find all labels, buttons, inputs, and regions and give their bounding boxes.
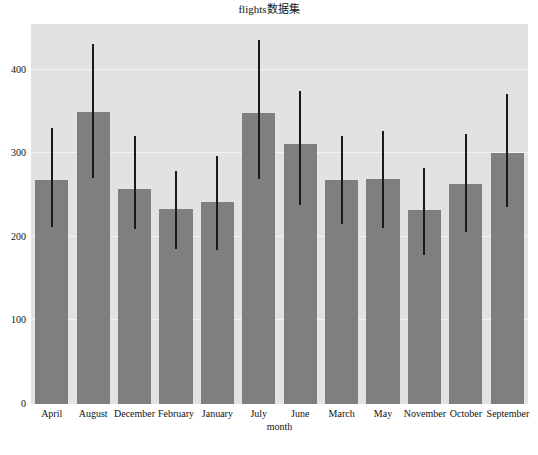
error-bar bbox=[258, 40, 260, 179]
error-bar bbox=[299, 91, 301, 205]
chart-title: flights数据集 bbox=[0, 2, 538, 16]
figure: flights数据集 0100200300400 AprilAugustDece… bbox=[0, 0, 538, 455]
x-tick-label: October bbox=[445, 408, 486, 420]
x-tick-label: December bbox=[114, 408, 155, 420]
gridline bbox=[31, 69, 528, 70]
y-tick-label: 200 bbox=[0, 231, 26, 242]
x-tick-label: September bbox=[487, 408, 528, 420]
error-bar bbox=[134, 136, 136, 229]
error-bar bbox=[51, 128, 53, 227]
error-bar bbox=[382, 131, 384, 228]
error-bar bbox=[423, 168, 425, 256]
y-tick-label: 0 bbox=[0, 398, 26, 409]
y-tick-label: 400 bbox=[0, 64, 26, 75]
x-tick-label: February bbox=[155, 408, 196, 420]
y-tick-label: 300 bbox=[0, 147, 26, 158]
plot-area bbox=[31, 24, 528, 404]
error-bar bbox=[92, 44, 94, 178]
error-bar bbox=[216, 156, 218, 250]
x-axis-label: month bbox=[31, 421, 528, 433]
y-tick-label: 100 bbox=[0, 314, 26, 325]
x-tick-label: April bbox=[31, 408, 72, 420]
x-tick-label: August bbox=[72, 408, 113, 420]
x-tick-label: June bbox=[280, 408, 321, 420]
error-bar bbox=[506, 94, 508, 207]
x-tick-label: May bbox=[362, 408, 403, 420]
x-tick-label: July bbox=[238, 408, 279, 420]
x-tick-label: November bbox=[404, 408, 445, 420]
error-bar bbox=[465, 134, 467, 232]
error-bar bbox=[341, 136, 343, 225]
x-tick-label: January bbox=[197, 408, 238, 420]
error-bar bbox=[175, 171, 177, 249]
x-tick-label: March bbox=[321, 408, 362, 420]
